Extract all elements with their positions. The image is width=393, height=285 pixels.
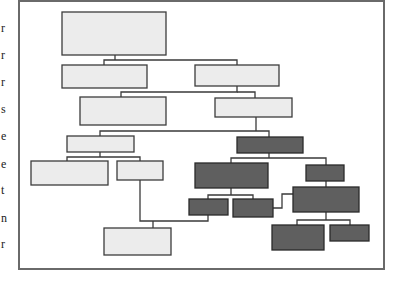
node-n4 <box>80 97 166 125</box>
node-dB <box>195 163 268 188</box>
node-n1 <box>62 12 166 55</box>
node-n7 <box>31 161 108 185</box>
node-dE <box>306 165 344 181</box>
node-n3 <box>195 65 279 86</box>
node-n2 <box>62 65 147 88</box>
node-dH <box>330 225 369 241</box>
node-n9 <box>104 228 171 255</box>
node-dD <box>233 199 273 217</box>
node-dG <box>272 225 324 250</box>
node-n5 <box>215 98 292 117</box>
hierarchy-diagram <box>0 0 393 285</box>
node-n8 <box>117 161 163 180</box>
node-n6 <box>67 136 134 152</box>
node-dF <box>293 187 359 212</box>
node-dC <box>189 199 228 215</box>
node-dA <box>237 137 303 153</box>
